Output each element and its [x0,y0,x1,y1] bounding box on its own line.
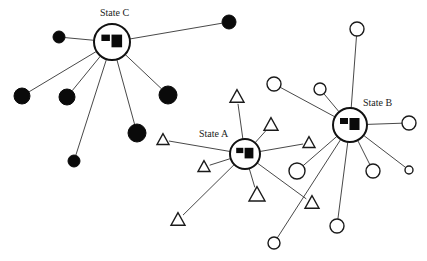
filled-circle-node [68,155,80,167]
filled-circle-node [159,86,177,104]
edge-state-a-3 [238,104,243,139]
edge-state-c-1 [29,51,97,92]
edge-state-b-3 [367,123,402,124]
edge-state-b-7 [338,142,348,219]
hub-label-state-b: State B [363,97,392,108]
hub-state-a [230,139,260,169]
open-circle-node [405,166,413,174]
hub-label-state-a: State A [199,128,229,139]
open-circle-node [366,164,380,178]
edge-state-c-5 [125,54,161,88]
edge-state-c-6 [130,23,222,39]
open-circle-node [402,116,416,130]
triangle-node [157,134,169,145]
edge-state-a-6 [249,168,255,187]
filled-circle-node [59,89,75,105]
edge-state-c-0 [65,38,94,41]
open-circle-node [314,83,326,95]
edge-state-a-4 [255,130,266,143]
edge-state-b-6 [364,135,406,167]
hub-label-state-c: State C [100,7,129,18]
filled-circle-node [222,15,236,29]
edge-state-c-2 [72,56,101,91]
open-circle-node [289,163,305,179]
small-block-icon [340,118,348,124]
filled-circle-node [128,124,146,142]
edge-state-b-5 [358,140,370,165]
edge-state-b-2 [324,94,339,112]
triangle-node [171,213,185,226]
edge-state-a-5 [260,144,303,152]
hub-state-c [94,24,130,60]
open-circle-node [350,22,364,36]
state-network-diagram: State C State A State B [0,0,427,261]
triangle-node [264,118,278,131]
filled-circle-node [14,88,30,104]
large-block-icon [112,35,123,48]
edge-state-a-0 [169,141,230,152]
filled-circle-node [53,31,65,43]
triangle-node [198,161,210,172]
small-block-icon [101,35,110,41]
triangle-node [303,137,315,148]
triangle-node [249,187,265,201]
large-block-icon [350,118,360,130]
open-circle-node [330,219,344,233]
triangle-node [230,90,244,103]
edge-state-b-0 [351,36,356,108]
edge-state-c-4 [117,59,135,124]
large-block-icon [245,148,254,159]
edge-state-c-3 [76,59,107,155]
open-circle-node [267,77,281,91]
triangle-node [305,196,319,209]
open-circle-node [268,237,280,249]
edge-state-a-1 [210,159,231,166]
hub-state-b [333,108,367,142]
edge-state-b-1 [280,87,335,117]
small-block-icon [236,148,243,153]
